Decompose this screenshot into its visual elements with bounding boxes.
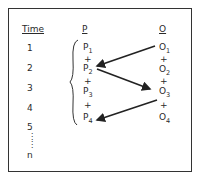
arrow-p2-to-o3 xyxy=(97,69,150,89)
left-brace-icon xyxy=(70,40,78,125)
diagram-lines xyxy=(0,0,205,184)
arrow-o3-to-p4 xyxy=(97,100,157,120)
arrow-o1-to-p2 xyxy=(97,46,155,66)
